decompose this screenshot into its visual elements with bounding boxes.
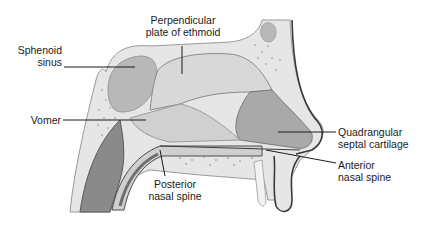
- label-line: Quadrangular: [338, 126, 409, 138]
- label-line: septal cartilage: [338, 138, 409, 150]
- label-line: Vomer: [4, 114, 61, 126]
- label-line: nasal spine: [338, 171, 391, 183]
- label-line: Perpendicular: [138, 14, 228, 26]
- label-line: Anterior: [338, 159, 391, 171]
- label-posterior-nasal-spine: Posterior nasal spine: [140, 178, 210, 202]
- label-line: Sphenoid: [4, 44, 62, 56]
- label-vomer: Vomer: [4, 114, 61, 126]
- label-line: sinus: [4, 56, 62, 68]
- nasal-septum-diagram: Sphenoid sinus Perpendicular plate of et…: [0, 0, 422, 226]
- label-line: nasal spine: [140, 190, 210, 202]
- label-line: Posterior: [140, 178, 210, 190]
- label-perpendicular-plate: Perpendicular plate of ethmoid: [138, 14, 228, 38]
- label-line: plate of ethmoid: [138, 26, 228, 38]
- label-anterior-nasal-spine: Anterior nasal spine: [338, 159, 391, 183]
- frontal-sinus: [261, 23, 276, 42]
- label-quadrangular-cartilage: Quadrangular septal cartilage: [338, 126, 409, 150]
- label-sphenoid-sinus: Sphenoid sinus: [4, 44, 62, 68]
